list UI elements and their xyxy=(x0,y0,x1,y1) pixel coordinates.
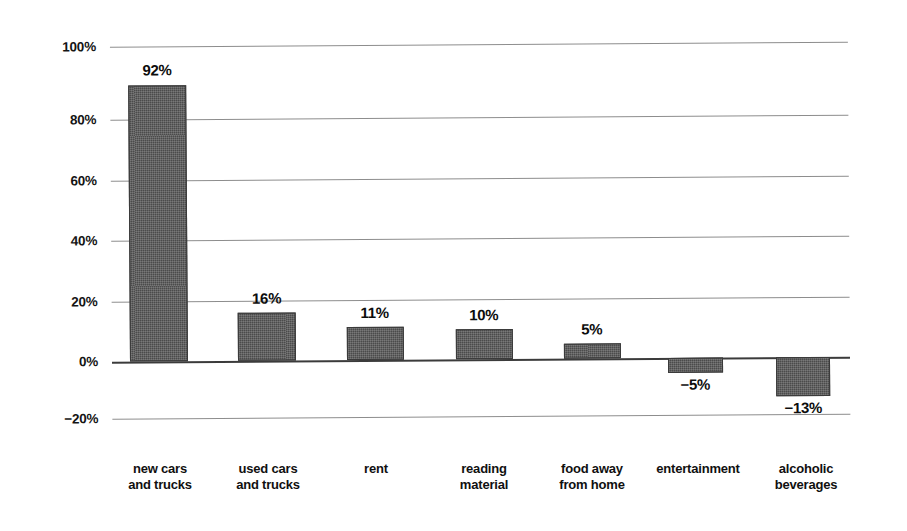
bar-rent xyxy=(347,327,404,360)
x-axis-label-reading-material: reading material xyxy=(460,461,508,493)
x-axis-label-used-cars-and-trucks: used cars and trucks xyxy=(236,461,300,493)
y-axis-tick-0: 0% xyxy=(0,354,98,370)
value-label-food-away-from-home: 5% xyxy=(581,320,602,337)
bar-entertainment xyxy=(668,358,723,373)
plot-area: 100% 80% 60% 40% 20% 0% −20% 92% 16% 11%… xyxy=(0,0,907,531)
bar-reading-material xyxy=(456,329,513,359)
gridline-40 xyxy=(111,236,849,242)
value-label-reading-material: 10% xyxy=(469,306,498,323)
gridline-neg20 xyxy=(112,414,850,420)
bar-food-away-from-home xyxy=(564,343,621,358)
x-axis-label-rent: rent xyxy=(364,461,388,477)
gridline-60 xyxy=(111,176,849,182)
value-label-rent: 11% xyxy=(360,304,388,321)
value-label-alcoholic-beverages: −13% xyxy=(784,399,822,416)
x-axis-label-alcoholic-beverages: alcoholic beverages xyxy=(775,461,838,493)
gridline-80 xyxy=(110,115,848,121)
value-label-new-cars-and-trucks: 92% xyxy=(142,61,171,78)
value-label-used-cars-and-trucks: 16% xyxy=(252,290,281,307)
x-axis-label-food-away-from-home: food away from home xyxy=(559,461,624,493)
bar-chart-figure: 100% 80% 60% 40% 20% 0% −20% 92% 16% 11%… xyxy=(0,0,907,531)
bar-new-cars-and-trucks xyxy=(128,85,188,361)
y-axis-tick-neg20: −20% xyxy=(0,411,98,427)
bar-used-cars-and-trucks xyxy=(238,312,296,360)
x-axis-label-new-cars-and-trucks: new cars and trucks xyxy=(128,461,192,493)
y-axis-tick-100: 100% xyxy=(0,39,96,55)
x-axis-label-entertainment: entertainment xyxy=(656,461,739,477)
y-axis-tick-80: 80% xyxy=(0,112,96,128)
y-axis-tick-60: 60% xyxy=(0,173,97,189)
y-axis-tick-20: 20% xyxy=(0,294,98,310)
gridline-100 xyxy=(110,42,848,48)
bar-alcoholic-beverages xyxy=(776,357,830,396)
gridline-20 xyxy=(112,297,850,303)
value-label-entertainment: −5% xyxy=(680,376,710,393)
y-axis-tick-40: 40% xyxy=(0,233,97,249)
